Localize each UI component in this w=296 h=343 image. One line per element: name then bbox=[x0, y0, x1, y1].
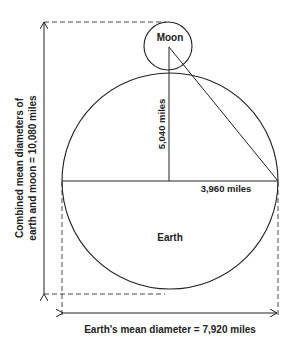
moon-label: Moon bbox=[157, 32, 184, 43]
earth-label: Earth bbox=[157, 232, 183, 243]
hypotenuse-line bbox=[169, 47, 278, 181]
radius-label: 3,960 miles bbox=[201, 183, 252, 194]
moon-circle bbox=[144, 22, 192, 70]
combined-diameter-label: Combined mean diameters of earth and moo… bbox=[14, 95, 38, 241]
moon-earth-distance-label: 5,040 miles bbox=[156, 99, 167, 150]
earth-diameter-label: Earth's mean diameter = 7,920 miles bbox=[84, 324, 256, 335]
combined-label-line-1: Combined mean diameters of bbox=[14, 97, 25, 238]
earth-moon-diagram: Moon Earth 3,960 miles 5,040 miles Earth… bbox=[0, 0, 296, 343]
combined-label-line-2: earth and moon = 10,080 miles bbox=[27, 95, 38, 241]
dashed-guides bbox=[44, 22, 278, 318]
